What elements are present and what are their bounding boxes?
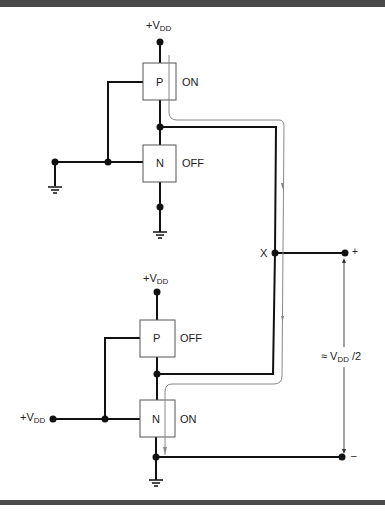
ground-icon	[48, 187, 62, 193]
top-supply-label: +VDD	[146, 20, 171, 33]
arrow-down-icon	[163, 447, 167, 454]
nmos-top-state: OFF	[182, 158, 204, 169]
pmos-bottom-letter: P	[153, 333, 160, 344]
nmos-bottom-letter: N	[152, 414, 160, 425]
arrow-down-icon	[342, 449, 346, 454]
ground-icon	[153, 232, 167, 238]
nmos-top-letter: N	[156, 158, 164, 169]
pmos-bottom-state: OFF	[180, 333, 202, 344]
input-supply-label: +VDD	[20, 412, 45, 425]
bottom-supply-label: +VDD	[143, 273, 168, 286]
minus-terminal-label: –	[351, 451, 357, 461]
plus-terminal-label: +	[352, 247, 358, 257]
arrow-down-icon	[281, 316, 284, 322]
pmos-top-state: ON	[182, 77, 199, 88]
ground-icon	[149, 480, 163, 486]
wires	[53, 42, 345, 480]
nmos-bottom-state: ON	[180, 414, 197, 425]
pmos-top-letter: P	[156, 77, 163, 88]
arrow-up-icon	[342, 258, 346, 263]
junction-dots	[50, 39, 349, 461]
node-x-label: X	[260, 248, 267, 259]
voltage-half-label: ≈ VDD /2	[320, 351, 362, 364]
